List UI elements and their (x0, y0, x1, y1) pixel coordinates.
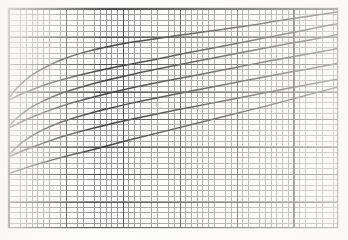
series-curve-3-lower (9, 79, 337, 156)
series-curve-4-baseline (9, 87, 337, 173)
plot-area (8, 8, 338, 228)
series-curve-3-upper (9, 64, 337, 155)
scanned-figure (0, 0, 348, 240)
curve-group (9, 9, 337, 227)
series-paths (9, 12, 337, 174)
